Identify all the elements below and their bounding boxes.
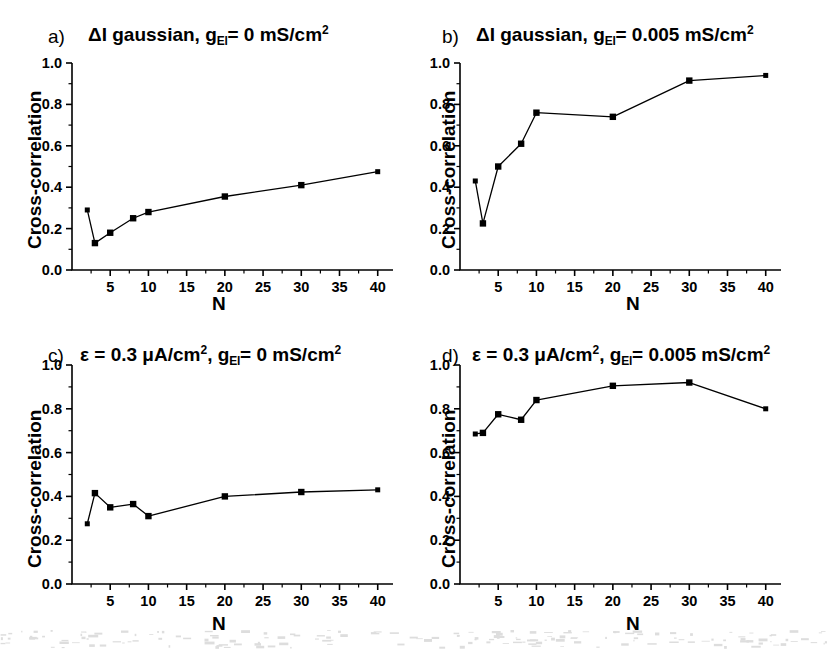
panel-d-marker: [763, 406, 768, 411]
panel-b-marker: [518, 141, 524, 147]
panel-a-axes: 0.00.20.40.60.81.0510152025303540: [42, 55, 393, 295]
panel-c-xtick: 30: [293, 593, 309, 609]
panel-d-marker: [495, 411, 501, 417]
panel-a-marker: [85, 207, 90, 212]
panel-c-marker: [107, 504, 113, 510]
panel-b-line: [475, 75, 765, 223]
panel-a-ytick: 1.0: [42, 55, 62, 71]
panel-d-line: [475, 383, 765, 434]
panel-a-xtick: 35: [331, 279, 347, 295]
panel-d-xtick: 35: [719, 593, 735, 609]
panel-a-line: [87, 172, 377, 243]
panel-d-xlabel: N: [626, 613, 640, 635]
panel-d-marker: [610, 383, 616, 389]
panel-d-ytick: 1.0: [430, 357, 450, 373]
panel-d-marker: [686, 379, 692, 385]
panel-a-xtick: 30: [293, 279, 309, 295]
panel-b-marker: [763, 73, 768, 78]
panel-d-xtick: 20: [605, 593, 621, 609]
panel-b-plot: 0.00.20.40.60.81.0510152025303540: [414, 0, 827, 325]
panel-c-series: [85, 487, 380, 526]
panel-d-xtick: 5: [494, 593, 502, 609]
panel-d-xtick: 40: [758, 593, 774, 609]
panel-a-xtick: 5: [106, 279, 114, 295]
panel-d-marker: [480, 430, 486, 436]
panel-b: b) ΔI gaussian, gEl= 0.005 mS/cm2 0.00.2…: [414, 0, 827, 325]
panel-b-xtick: 25: [643, 279, 659, 295]
panel-b-xtick: 10: [528, 279, 544, 295]
panel-c-ylabel: Cross-correlation: [24, 410, 46, 568]
panel-c-xtick: 15: [179, 593, 195, 609]
panel-c-marker: [85, 521, 90, 526]
panel-a-xtick: 40: [370, 279, 386, 295]
panel-b-xtick: 15: [567, 279, 583, 295]
panel-c-xtick: 40: [370, 593, 386, 609]
panel-b-ytick: 1.0: [430, 55, 450, 71]
panel-a-xlabel: N: [212, 293, 226, 315]
panel-d-marker: [473, 431, 478, 436]
panel-a-xtick: 25: [255, 279, 271, 295]
panel-d-plot: 0.00.20.40.60.81.0510152025303540: [414, 325, 827, 650]
panel-c-plot: 0.00.20.40.60.81.0510152025303540: [0, 325, 413, 650]
panel-c-xtick: 5: [106, 593, 114, 609]
panel-a-marker: [92, 240, 98, 246]
panel-b-ylabel: Cross-correlation: [438, 91, 460, 249]
panel-c-marker: [130, 501, 136, 507]
panel-d-svg: 0.00.20.40.60.81.0510152025303540: [414, 325, 827, 650]
panel-a-ylabel: Cross-correlation: [24, 91, 46, 249]
panel-c-xtick: 35: [331, 593, 347, 609]
panel-c-xlabel: N: [212, 613, 226, 635]
panel-b-marker: [610, 114, 616, 120]
panel-b-xtick: 40: [758, 279, 774, 295]
panel-b-marker: [533, 109, 539, 115]
panel-b-xtick: 5: [494, 279, 502, 295]
panel-d-marker: [518, 417, 524, 423]
panel-d-series: [473, 379, 768, 436]
panel-a-xtick: 15: [179, 279, 195, 295]
panel-a: a) ΔI gaussian, gEl= 0 mS/cm2 0.00.20.40…: [0, 0, 413, 325]
panel-c-marker: [145, 513, 151, 519]
panel-a-series: [85, 169, 380, 246]
figure-cross-correlation-vs-n: a) ΔI gaussian, gEl= 0 mS/cm2 0.00.20.40…: [0, 0, 827, 650]
panel-b-xlabel: N: [626, 293, 640, 315]
panel-c-xtick: 20: [217, 593, 233, 609]
panel-a-marker: [107, 230, 113, 236]
panel-b-ytick: 0.0: [430, 262, 450, 278]
panel-c-svg: 0.00.20.40.60.81.0510152025303540: [0, 325, 413, 650]
panel-a-marker: [375, 169, 380, 174]
panel-a-ytick: 0.0: [42, 262, 62, 278]
panel-c-marker: [92, 490, 98, 496]
panel-b-marker: [480, 220, 486, 226]
panel-b-marker: [473, 178, 478, 183]
panel-b-xtick: 20: [605, 279, 621, 295]
panel-c: c) ε = 0.3 μA/cm2, gEl= 0 mS/cm2 0.00.20…: [0, 325, 413, 650]
panel-a-marker: [222, 193, 228, 199]
panel-a-marker: [130, 215, 136, 221]
panel-d-ylabel: Cross-correlation: [438, 410, 460, 568]
panel-b-xtick: 30: [681, 279, 697, 295]
panel-c-xtick: 10: [140, 593, 156, 609]
panel-b-marker: [495, 163, 501, 169]
panel-d-xtick: 30: [681, 593, 697, 609]
panel-b-marker: [686, 77, 692, 83]
panel-a-marker: [145, 209, 151, 215]
panel-d-axes: 0.00.20.40.60.81.0510152025303540: [430, 357, 781, 609]
panel-d-marker: [533, 397, 539, 403]
panel-c-marker: [375, 487, 380, 492]
panel-c-axes: 0.00.20.40.60.81.0510152025303540: [42, 357, 393, 609]
panel-c-ytick: 1.0: [42, 357, 62, 373]
panel-c-ytick: 0.0: [42, 576, 62, 592]
panel-a-marker: [298, 182, 304, 188]
panel-b-axes: 0.00.20.40.60.81.0510152025303540: [430, 55, 781, 295]
panel-a-svg: 0.00.20.40.60.81.0510152025303540: [0, 0, 413, 325]
panel-d: d) ε = 0.3 μA/cm2, gEl= 0.005 mS/cm2 0.0…: [414, 325, 827, 650]
panel-d-xtick: 15: [567, 593, 583, 609]
panel-a-plot: 0.00.20.40.60.81.0510152025303540: [0, 0, 413, 325]
panel-d-xtick: 10: [528, 593, 544, 609]
panel-d-ytick: 0.0: [430, 576, 450, 592]
panel-b-svg: 0.00.20.40.60.81.0510152025303540: [414, 0, 827, 325]
panel-b-series: [473, 73, 768, 227]
panel-a-xtick: 10: [140, 279, 156, 295]
panel-c-marker: [298, 489, 304, 495]
panel-c-xtick: 25: [255, 593, 271, 609]
